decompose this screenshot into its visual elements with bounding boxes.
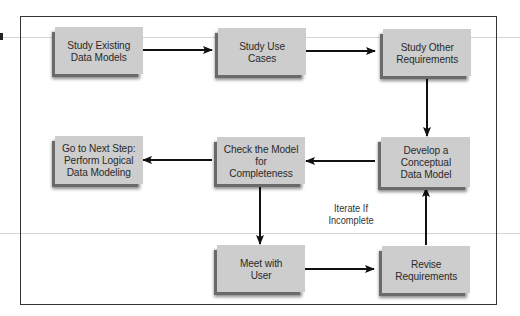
node-label: Study Use Cases [239, 40, 285, 64]
node-study-use-cases: Study Use Cases [218, 28, 306, 75]
node-label: Revise Requirements [395, 258, 457, 282]
edge-mark [0, 33, 3, 40]
node-study-existing-data-models: Study Existing Data Models [55, 27, 143, 74]
node-label: Study Existing Data Models [68, 39, 131, 63]
node-study-other-requirements: Study Other Requirements [383, 29, 471, 76]
node-label: Develop a Conceptual Data Model [400, 144, 451, 180]
node-revise-requirements: Revise Requirements [382, 246, 470, 293]
node-label: Check the Model for Completeness [222, 143, 299, 179]
node-check-model-completeness: Check the Model for Completeness [217, 137, 305, 184]
node-label: Go to Next Step: Perform Logical Data Mo… [62, 142, 135, 178]
iterate-annotation: Iterate If Incomplete [320, 202, 382, 226]
node-develop-conceptual-data-model: Develop a Conceptual Data Model [381, 137, 470, 187]
node-meet-with-user: Meet with User [217, 245, 305, 292]
node-label: Meet with User [240, 257, 283, 281]
node-label: Study Other Requirements [396, 41, 458, 65]
node-next-step-logical-modeling: Go to Next Step: Perform Logical Data Mo… [55, 136, 143, 184]
